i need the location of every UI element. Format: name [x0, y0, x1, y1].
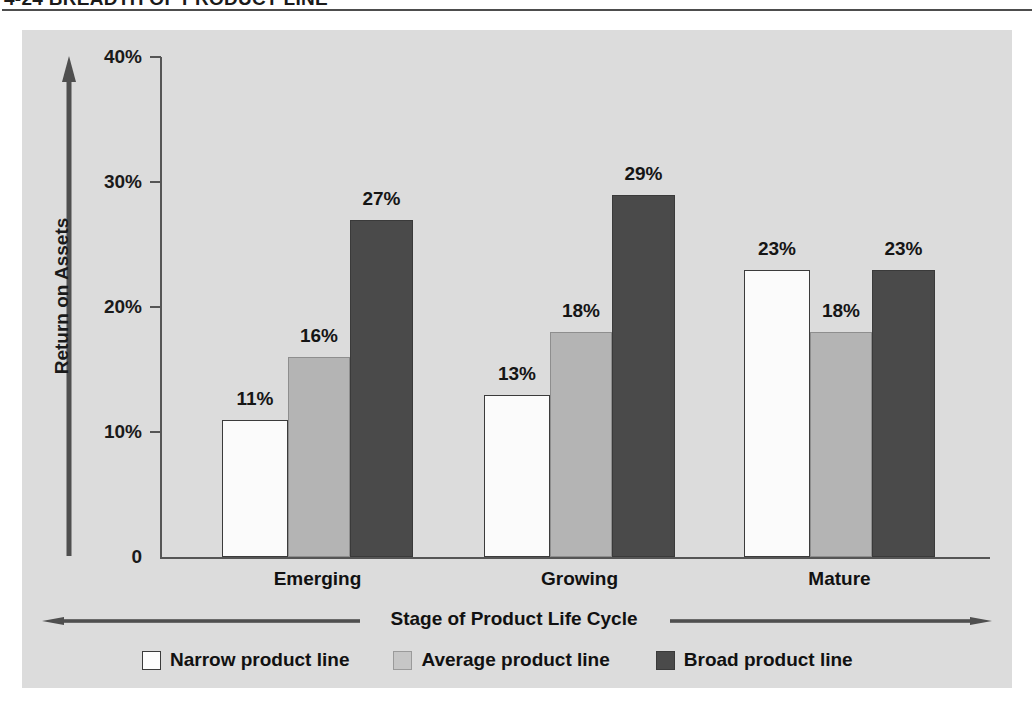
bar-value-growing-broad: 29% [612, 163, 675, 185]
y-tick-40 [150, 56, 161, 58]
legend-swatch-narrow-icon [142, 651, 161, 670]
y-tick-label-30: 30% [104, 171, 142, 193]
y-tick-10 [150, 431, 161, 433]
page-header: 4-24 BREADTH OF PRODUCT LINE [0, 0, 1034, 24]
y-tick-20 [150, 306, 161, 308]
bar-mature-narrow[interactable] [744, 270, 810, 557]
header-divider [2, 9, 1032, 11]
x-axis-arrow-left-icon [42, 617, 360, 625]
x-axis-title-row: Stage of Product Life Cycle [42, 608, 992, 634]
y-tick-label-40: 40% [104, 46, 142, 68]
bar-emerging-narrow[interactable] [222, 420, 288, 557]
bar-value-mature-narrow: 23% [744, 238, 810, 260]
legend-item-average[interactable]: Average product line [393, 649, 609, 671]
legend-label-average: Average product line [421, 649, 609, 671]
legend-label-narrow: Narrow product line [170, 649, 349, 671]
bar-value-growing-average: 18% [550, 300, 612, 322]
y-tick-label-0: 0 [131, 546, 142, 568]
bar-emerging-broad[interactable] [350, 220, 413, 557]
bar-value-emerging-average: 16% [288, 325, 350, 347]
plot-area: Return on Assets 40% 30% 20% 10% 0 11% 1… [22, 30, 1012, 688]
x-group-label-emerging: Emerging [222, 568, 413, 590]
legend-item-narrow[interactable]: Narrow product line [142, 649, 349, 671]
legend-label-broad: Broad product line [684, 649, 853, 671]
bar-emerging-average[interactable] [288, 357, 350, 557]
bar-value-growing-narrow: 13% [484, 363, 550, 385]
bar-growing-narrow[interactable] [484, 395, 550, 557]
x-axis-title: Stage of Product Life Cycle [364, 608, 664, 630]
bar-value-emerging-broad: 27% [350, 188, 413, 210]
x-group-label-growing: Growing [484, 568, 675, 590]
legend-swatch-average-icon [393, 651, 412, 670]
bar-growing-broad[interactable] [612, 195, 675, 557]
chart-legend: Narrow product line Average product line… [142, 644, 942, 676]
bar-value-mature-average: 18% [810, 300, 872, 322]
y-tick-label-10: 10% [104, 421, 142, 443]
x-axis-line [160, 557, 990, 559]
bar-value-emerging-narrow: 11% [222, 388, 288, 410]
y-tick-30 [150, 181, 161, 183]
legend-item-broad[interactable]: Broad product line [656, 649, 853, 671]
bar-mature-broad[interactable] [872, 270, 935, 557]
legend-swatch-broad-icon [656, 651, 675, 670]
chart-panel: Return on Assets 40% 30% 20% 10% 0 11% 1… [22, 30, 1012, 688]
bar-mature-average[interactable] [810, 332, 872, 557]
x-group-label-mature: Mature [744, 568, 935, 590]
bar-growing-average[interactable] [550, 332, 612, 557]
bar-value-mature-broad: 23% [872, 238, 935, 260]
y-tick-label-20: 20% [104, 296, 142, 318]
x-axis-arrow-right-icon [670, 617, 992, 625]
y-axis-line [160, 57, 162, 559]
